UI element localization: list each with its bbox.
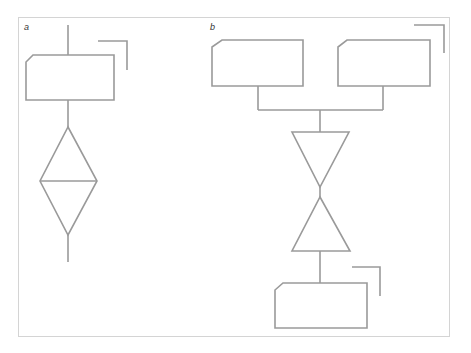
unit-box [26, 55, 114, 100]
panel-a [26, 25, 127, 262]
triangle-up-symbol [292, 197, 350, 251]
corner-mark-icon [352, 267, 380, 296]
diagram-canvas [0, 0, 471, 353]
triangle-down-symbol [292, 132, 349, 187]
panel-b [212, 25, 444, 328]
unit-box-right [338, 40, 430, 86]
unit-box-bottom [275, 283, 367, 328]
corner-mark-icon [414, 25, 444, 53]
unit-box-left [212, 40, 303, 86]
